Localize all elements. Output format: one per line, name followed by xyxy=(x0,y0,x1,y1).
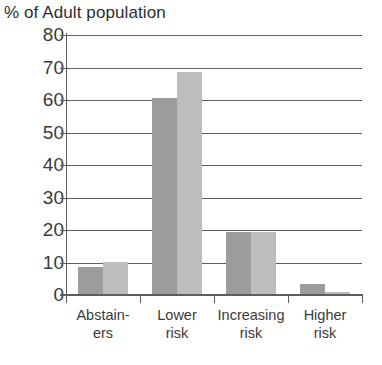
gridline xyxy=(66,198,362,199)
bar xyxy=(152,98,177,295)
x-axis-tick-mark xyxy=(362,295,363,303)
bar xyxy=(251,232,276,295)
x-axis-tick-mark xyxy=(214,295,215,303)
x-axis-category-label-line: Increasing xyxy=(214,306,288,324)
gridline xyxy=(66,35,362,36)
x-axis-tick-mark xyxy=(140,295,141,303)
x-axis-category-label-line: risk xyxy=(140,324,214,342)
x-axis-line xyxy=(60,294,363,295)
chart-title: % of Adult population xyxy=(4,2,166,24)
bar xyxy=(226,232,251,295)
x-axis-category-label: Higherrisk xyxy=(288,306,362,342)
x-axis-category-label-line: risk xyxy=(214,324,288,342)
x-axis-tick-mark xyxy=(288,295,289,303)
bar xyxy=(103,262,128,295)
gridline xyxy=(66,165,362,166)
gridline xyxy=(66,100,362,101)
x-axis-category-label-line: Abstain- xyxy=(66,306,140,324)
bar xyxy=(177,72,202,295)
x-axis-category-label: Abstain-ers xyxy=(66,306,140,342)
x-axis-category-label-line: Lower xyxy=(140,306,214,324)
bar-chart: % of Adult population 80706050403020100 … xyxy=(0,0,382,365)
x-axis-category-label: Lowerrisk xyxy=(140,306,214,342)
bar xyxy=(78,267,103,295)
plot-area xyxy=(66,35,362,295)
gridline xyxy=(66,133,362,134)
gridline xyxy=(66,230,362,231)
x-axis-category-label-line: Higher xyxy=(288,306,362,324)
x-axis-tick-mark xyxy=(66,295,67,303)
x-axis-category-label-line: ers xyxy=(66,324,140,342)
x-axis-category-label: Increasingrisk xyxy=(214,306,288,342)
gridline xyxy=(66,68,362,69)
x-axis-category-label-line: risk xyxy=(288,324,362,342)
